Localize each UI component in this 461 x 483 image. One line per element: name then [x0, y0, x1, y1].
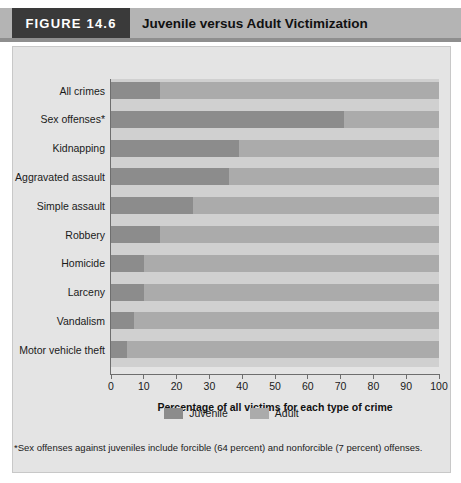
bar-row: All crimes [111, 82, 439, 99]
category-label: Vandalism [57, 315, 105, 327]
x-tick-mark [111, 375, 112, 379]
bar-segment-adult [144, 255, 439, 272]
figure-footnote: *Sex offenses against juveniles include … [14, 442, 454, 453]
bar-segment-juvenile [111, 226, 160, 243]
bar-segment-juvenile [111, 111, 344, 128]
category-label: Kidnapping [52, 142, 105, 154]
category-label: Motor vehicle theft [19, 344, 105, 356]
figure-page: FIGURE 14.6 Juvenile versus Adult Victim… [0, 0, 461, 483]
x-tick-mark [307, 375, 308, 379]
bar-segment-adult [160, 226, 439, 243]
category-label: Larceny [68, 286, 105, 298]
header-band-shadow [0, 38, 461, 42]
category-label: Robbery [65, 229, 105, 241]
figure-number-tag: FIGURE 14.6 [12, 8, 130, 38]
bar-row: Kidnapping [111, 140, 439, 157]
x-tick-mark [242, 375, 243, 379]
bar-segment-adult [344, 111, 439, 128]
legend-label: Juvenile [189, 407, 228, 419]
bar-segment-adult [134, 312, 439, 329]
bar-segment-adult [160, 82, 439, 99]
legend-item: Juvenile [164, 407, 228, 419]
bar-row: Sex offenses* [111, 111, 439, 128]
bar-segment-juvenile [111, 312, 134, 329]
legend-swatch [250, 408, 269, 419]
bar-segment-juvenile [111, 284, 144, 301]
category-label: All crimes [59, 85, 105, 97]
category-label: Homicide [61, 257, 105, 269]
x-tick-mark [406, 375, 407, 379]
bar-row: Larceny [111, 284, 439, 301]
legend-label: Adult [275, 407, 299, 419]
legend-item: Adult [250, 407, 299, 419]
x-tick-label: 70 [335, 380, 347, 392]
x-tick-mark [439, 375, 440, 379]
x-tick-label: 20 [171, 380, 183, 392]
x-tick-label: 100 [430, 380, 448, 392]
bar-segment-adult [239, 140, 439, 157]
x-tick-label: 90 [400, 380, 412, 392]
x-tick-mark [275, 375, 276, 379]
bar-segment-juvenile [111, 82, 160, 99]
plot-area: All crimesSex offenses*KidnappingAggrava… [111, 79, 439, 367]
legend-swatch [164, 408, 183, 419]
bar-segment-juvenile [111, 255, 144, 272]
bar-row: Homicide [111, 255, 439, 272]
x-tick-mark [340, 375, 341, 379]
x-tick-label: 30 [204, 380, 216, 392]
bar-segment-juvenile [111, 168, 229, 185]
x-tick-mark [209, 375, 210, 379]
chart-legend: JuvenileAdult [13, 407, 450, 419]
category-label: Simple assault [37, 200, 105, 212]
bar-segment-juvenile [111, 341, 127, 358]
bar-segment-adult [127, 341, 439, 358]
category-label: Sex offenses* [40, 113, 105, 125]
bar-row: Robbery [111, 226, 439, 243]
bar-row: Vandalism [111, 312, 439, 329]
x-tick-label: 10 [138, 380, 150, 392]
bar-segment-adult [144, 284, 439, 301]
x-tick-label: 40 [236, 380, 248, 392]
bar-segment-juvenile [111, 197, 193, 214]
figure-title: Juvenile versus Adult Victimization [142, 8, 368, 38]
x-tick-label: 50 [269, 380, 281, 392]
bar-row: Simple assault [111, 197, 439, 214]
x-tick-label: 60 [302, 380, 314, 392]
bar-segment-adult [229, 168, 439, 185]
x-tick-mark [176, 375, 177, 379]
x-tick-mark [143, 375, 144, 379]
x-tick-mark [373, 375, 374, 379]
x-tick-label: 0 [108, 380, 114, 392]
bar-segment-juvenile [111, 140, 239, 157]
category-label: Aggravated assault [15, 171, 105, 183]
x-tick-label: 80 [368, 380, 380, 392]
bar-row: Aggravated assault [111, 168, 439, 185]
bar-segment-adult [193, 197, 439, 214]
chart-panel: All crimesSex offenses*KidnappingAggrava… [12, 46, 451, 473]
bar-row: Motor vehicle theft [111, 341, 439, 358]
